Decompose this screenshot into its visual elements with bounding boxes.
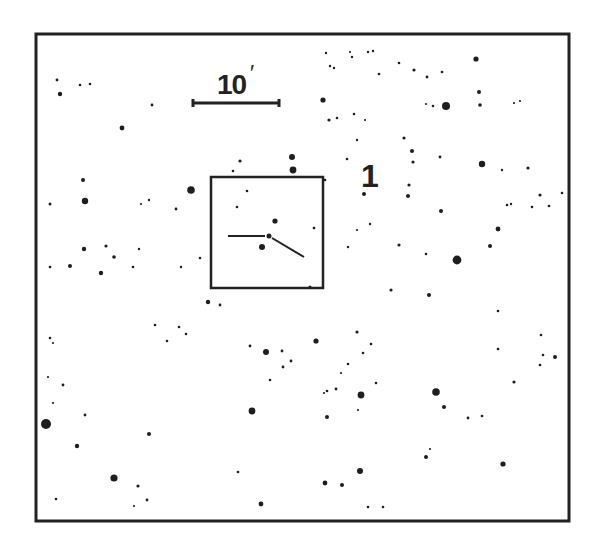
star — [389, 288, 392, 291]
star — [406, 194, 410, 198]
star — [357, 468, 363, 474]
star — [263, 349, 269, 355]
star — [326, 390, 329, 393]
star — [290, 167, 297, 174]
star — [397, 243, 400, 246]
star — [110, 474, 117, 481]
star — [52, 402, 54, 404]
star-chart — [0, 0, 597, 555]
star — [398, 62, 401, 65]
star — [367, 51, 369, 53]
star — [561, 192, 564, 195]
star — [540, 334, 543, 337]
star — [553, 355, 557, 359]
star — [531, 206, 534, 209]
star — [356, 229, 358, 231]
star — [425, 253, 428, 256]
star — [120, 126, 125, 131]
star — [340, 483, 344, 487]
star — [147, 432, 151, 436]
star — [327, 118, 330, 121]
star — [104, 244, 107, 247]
star — [112, 255, 116, 259]
target-star — [268, 235, 271, 238]
star — [333, 67, 335, 69]
star — [79, 84, 82, 87]
star — [185, 333, 188, 336]
star — [473, 56, 478, 61]
star — [336, 117, 339, 120]
star — [477, 90, 481, 94]
star — [497, 348, 500, 351]
star — [324, 179, 327, 182]
star — [346, 158, 349, 161]
star — [513, 102, 515, 104]
star — [355, 330, 358, 333]
star — [249, 345, 252, 348]
star — [500, 461, 505, 466]
star — [441, 71, 444, 74]
star — [378, 73, 381, 76]
star — [538, 193, 541, 196]
star — [154, 324, 157, 327]
star — [290, 360, 293, 363]
star — [425, 103, 427, 105]
star — [501, 169, 503, 171]
star — [496, 227, 501, 232]
star — [323, 392, 325, 394]
star — [357, 409, 359, 411]
star — [375, 382, 378, 385]
star — [526, 166, 529, 169]
star — [75, 444, 79, 448]
star — [382, 506, 385, 509]
star — [52, 342, 54, 344]
star — [313, 227, 315, 229]
star — [353, 113, 356, 116]
star — [259, 244, 265, 250]
star — [199, 257, 202, 260]
star — [548, 205, 551, 208]
star — [479, 161, 485, 167]
star — [148, 199, 150, 201]
star — [519, 100, 521, 102]
star — [47, 376, 49, 378]
star — [364, 119, 366, 121]
star — [187, 186, 195, 194]
star — [325, 52, 327, 54]
star — [320, 97, 325, 102]
star — [237, 471, 240, 474]
star — [335, 388, 338, 391]
star — [259, 502, 264, 507]
star — [349, 51, 351, 53]
star — [506, 204, 509, 207]
star — [325, 415, 329, 419]
star — [424, 455, 428, 459]
star — [411, 160, 414, 163]
star — [367, 506, 370, 509]
star — [497, 310, 500, 313]
star — [539, 364, 542, 367]
star — [151, 104, 154, 107]
star — [308, 285, 311, 288]
star — [358, 392, 365, 399]
star — [453, 256, 462, 265]
star — [369, 223, 371, 225]
star — [49, 266, 52, 269]
star — [426, 76, 429, 79]
star — [99, 271, 103, 275]
star-field — [41, 50, 563, 509]
star — [206, 300, 210, 304]
star — [68, 264, 72, 268]
marker-tick-right — [272, 238, 304, 257]
star — [269, 379, 272, 382]
star — [281, 350, 284, 353]
star — [442, 405, 446, 409]
star — [323, 481, 328, 486]
star — [89, 83, 92, 86]
star — [410, 149, 414, 153]
star — [55, 498, 58, 501]
star — [133, 505, 135, 507]
star — [219, 304, 222, 307]
star — [429, 448, 431, 450]
star — [432, 105, 435, 108]
